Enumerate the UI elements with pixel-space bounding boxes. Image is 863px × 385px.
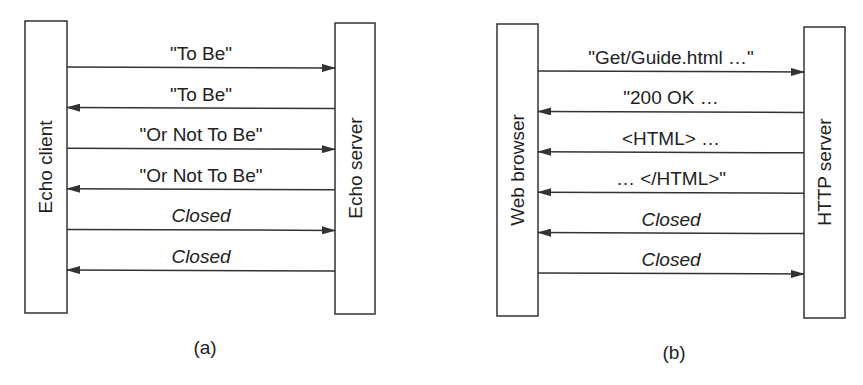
message-arrow-right (538, 71, 804, 72)
message-label: Closed (641, 209, 702, 230)
message-arrow-left (538, 152, 804, 153)
sequence-diagrams: Echo client Echo server "To Be""To Be""O… (0, 0, 863, 385)
message-arrow-left (538, 111, 804, 112)
message-arrow-left (538, 192, 804, 193)
http-server-label: HTTP server (814, 118, 835, 226)
message-label: Closed (171, 205, 232, 226)
message-label: Closed (641, 249, 702, 270)
message-label: … </HTML>" (616, 168, 726, 189)
message-label: "Get/Guide.html …" (588, 47, 754, 68)
panel-a: Echo client Echo server "To Be""To Be""O… (25, 21, 375, 358)
echo-server-label: Echo server (345, 117, 366, 219)
message-arrow-left (67, 108, 335, 109)
caption-b: (b) (662, 342, 685, 363)
message-arrow-right (67, 67, 335, 68)
panel-b: Web browser HTTP server "Get/Guide.html … (497, 24, 845, 363)
message-label: "Or Not To Be" (140, 124, 263, 145)
echo-client-label: Echo client (35, 120, 56, 214)
message-arrow-left (67, 270, 335, 271)
message-label: "200 OK … (623, 87, 718, 108)
caption-a: (a) (193, 337, 216, 358)
message-arrow-right (67, 229, 335, 230)
message-label: "To Be" (170, 84, 232, 105)
message-arrow-left (538, 233, 804, 234)
message-label: "To Be" (170, 43, 232, 64)
message-label: "Or Not To Be" (140, 165, 263, 186)
web-browser-label: Web browser (507, 114, 528, 226)
message-arrow-right (538, 273, 804, 274)
message-arrow-right (67, 148, 335, 149)
message-label: Closed (171, 246, 232, 267)
message-arrow-left (67, 189, 335, 190)
message-label: <HTML> … (622, 128, 720, 149)
